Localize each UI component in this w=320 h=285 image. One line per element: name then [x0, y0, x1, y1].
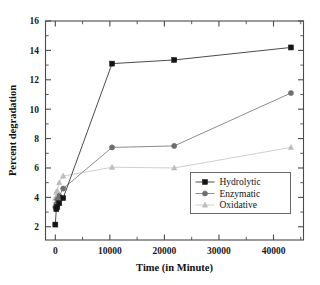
- data-point-hydrolytic: [288, 45, 293, 50]
- y-tick-label: 12: [30, 75, 40, 85]
- degradation-line-chart: 010000200003000040000246810121416Time (i…: [0, 0, 320, 285]
- legend-label-0: Hydrolytic: [220, 177, 261, 187]
- data-point-hydrolytic: [61, 196, 66, 201]
- data-point-hydrolytic: [57, 201, 62, 206]
- x-tick-label: 0: [53, 246, 58, 256]
- legend-label-2: Oxidative: [220, 200, 257, 210]
- y-tick-label: 4: [34, 193, 39, 203]
- data-point-hydrolytic: [110, 61, 115, 66]
- x-axis-title: Time (in Minute): [136, 262, 213, 274]
- x-tick-label: 30000: [207, 246, 231, 256]
- data-point-enzymatic: [109, 145, 114, 150]
- legend-marker-1: [202, 191, 207, 196]
- y-tick-label: 8: [34, 134, 39, 144]
- legend-marker-0: [203, 180, 208, 185]
- y-tick-label: 14: [30, 46, 40, 56]
- x-tick-label: 10000: [98, 246, 122, 256]
- y-tick-label: 2: [34, 222, 39, 232]
- chart-figure: 010000200003000040000246810121416Time (i…: [0, 0, 320, 285]
- x-tick-label: 20000: [153, 246, 177, 256]
- y-tick-label: 16: [30, 16, 40, 26]
- data-point-hydrolytic: [53, 222, 58, 227]
- x-tick-label: 40000: [262, 246, 286, 256]
- y-axis-title: Percent degradation: [7, 85, 18, 176]
- data-point-enzymatic: [61, 186, 66, 191]
- y-tick-label: 6: [34, 163, 39, 173]
- y-tick-label: 10: [30, 105, 40, 115]
- legend-label-1: Enzymatic: [220, 189, 261, 199]
- data-point-enzymatic: [288, 90, 293, 95]
- data-point-enzymatic: [172, 143, 177, 148]
- data-point-hydrolytic: [172, 57, 177, 62]
